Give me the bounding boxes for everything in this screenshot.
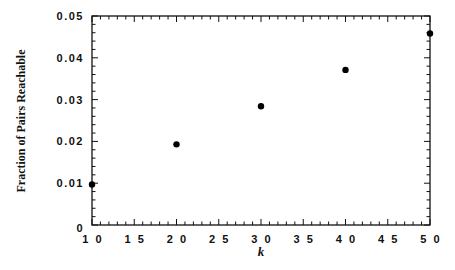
plot-frame — [92, 16, 430, 225]
x-axis-title: k — [258, 244, 265, 259]
major-ticks — [92, 16, 430, 225]
y-tick-label: 0.04 — [57, 52, 84, 64]
x-tick-label: 4 5 — [378, 233, 399, 245]
scatter-chart: 1 01 52 02 53 03 54 04 55 0 00.010.020.0… — [0, 0, 455, 270]
data-point — [89, 181, 95, 187]
x-tick-label: 1 5 — [125, 233, 146, 245]
data-point — [427, 30, 433, 36]
y-tick-label: 0.03 — [57, 94, 84, 106]
x-tick-label: 5 0 — [420, 233, 441, 245]
y-tick-labels: 00.010.020.030.040.05 — [57, 10, 84, 234]
data-points — [89, 30, 433, 187]
x-tick-label: 2 5 — [209, 233, 230, 245]
y-tick-label: 0.01 — [57, 177, 84, 189]
data-point — [258, 103, 264, 109]
minor-ticks — [92, 16, 430, 225]
y-tick-label: 0.02 — [57, 135, 84, 147]
x-tick-label: 3 5 — [294, 233, 315, 245]
plot-border — [92, 16, 430, 225]
data-point — [173, 141, 179, 147]
data-point — [342, 67, 348, 73]
y-tick-label: 0.05 — [57, 10, 84, 22]
y-axis-title: Fraction of Pairs Reachable — [14, 49, 28, 193]
x-tick-label: 4 0 — [336, 233, 357, 245]
y-tick-label: 0 — [76, 222, 84, 234]
x-tick-label: 1 0 — [82, 233, 103, 245]
x-tick-label: 2 0 — [167, 233, 188, 245]
